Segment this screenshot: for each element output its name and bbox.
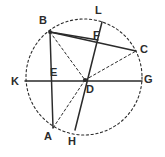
circle-layer	[26, 19, 142, 135]
segment-D-C	[85, 51, 136, 80]
segments-layer	[25, 22, 142, 130]
point-label-k: K	[11, 76, 19, 87]
geometry-canvas	[0, 0, 165, 157]
point-label-c: C	[140, 44, 148, 55]
point-label-l: L	[95, 5, 102, 16]
point-label-a: A	[44, 131, 52, 142]
geometry-figure: ABCDEFGHKL	[0, 0, 165, 157]
point-label-h: H	[68, 136, 76, 147]
vertex-dot-d	[83, 78, 87, 82]
point-label-b: B	[39, 15, 47, 26]
segment-B-A	[50, 32, 53, 128]
segment-D-A	[53, 80, 85, 128]
point-label-d: D	[86, 84, 94, 95]
vertex-dot-b	[48, 30, 52, 34]
point-label-e: E	[50, 67, 57, 78]
point-label-f: F	[93, 30, 100, 41]
segment-B-F	[50, 32, 98, 40]
circle-outline	[26, 19, 142, 135]
point-label-g: G	[144, 74, 153, 85]
